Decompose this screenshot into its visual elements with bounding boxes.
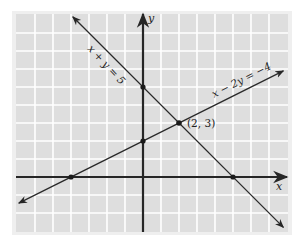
intersection-label: (2, 3) (187, 117, 215, 129)
intersection-point (176, 120, 182, 126)
point-marker (230, 174, 235, 179)
y-axis-label: y (147, 12, 155, 25)
point-marker (140, 84, 145, 89)
x-axis-label: x (276, 180, 283, 193)
graph-plot: y x x + y = 5 x − 2y = −4 (2, 3) (0, 0, 302, 244)
point-marker (140, 138, 145, 143)
point-marker (68, 174, 73, 179)
